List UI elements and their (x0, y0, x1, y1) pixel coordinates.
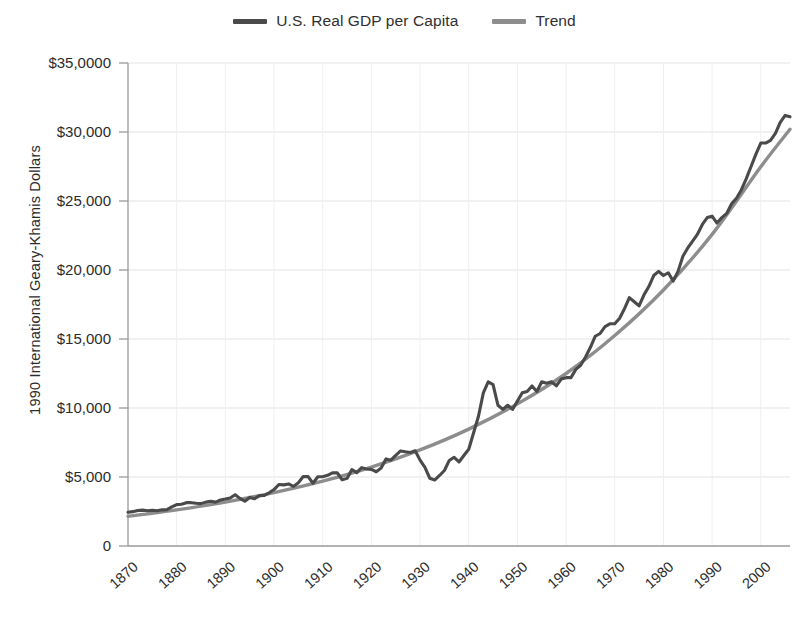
x-tick-label: 1900 (252, 558, 287, 591)
x-tick-label: 1950 (496, 558, 531, 591)
x-tick-label: 1980 (642, 558, 677, 591)
x-axis-tick-labels: 1870188018901900191019201930194019501960… (106, 558, 773, 591)
x-tick-label: 2000 (739, 558, 774, 591)
gdp-series-line (128, 115, 790, 512)
y-tick-label: $35,0000 (48, 54, 111, 71)
x-tick-label: 1960 (544, 558, 579, 591)
gdp-per-capita-chart: U.S. Real GDP per Capita Trend 1990 Inte… (0, 0, 809, 618)
vertical-gridlines (177, 63, 761, 546)
y-tick-label: $15,000 (57, 330, 111, 347)
y-tick-label: $10,000 (57, 399, 111, 416)
y-axis-tick-labels: 0$5,000$10,000$15,000$20,000$25,000$30,0… (48, 54, 111, 554)
trend-line (128, 129, 790, 516)
y-tick-label: $25,000 (57, 192, 111, 209)
x-tick-label: 1890 (204, 558, 239, 591)
x-tick-label: 1880 (155, 558, 190, 591)
horizontal-gridlines (128, 63, 790, 477)
y-tick-label: $20,000 (57, 261, 111, 278)
x-tick-label: 1910 (301, 558, 336, 591)
y-tick-label: $30,000 (57, 123, 111, 140)
plot-area: 0$5,000$10,000$15,000$20,000$25,000$30,0… (0, 0, 809, 618)
x-tick-label: 1870 (106, 558, 141, 591)
y-axis (119, 63, 128, 546)
x-tick-label: 1920 (350, 558, 385, 591)
y-tick-label: $5,000 (65, 468, 111, 485)
x-tick-label: 1990 (690, 558, 725, 591)
x-tick-label: 1930 (398, 558, 433, 591)
x-tick-label: 1940 (447, 558, 482, 591)
y-tick-label: 0 (103, 537, 111, 554)
x-tick-label: 1970 (593, 558, 628, 591)
